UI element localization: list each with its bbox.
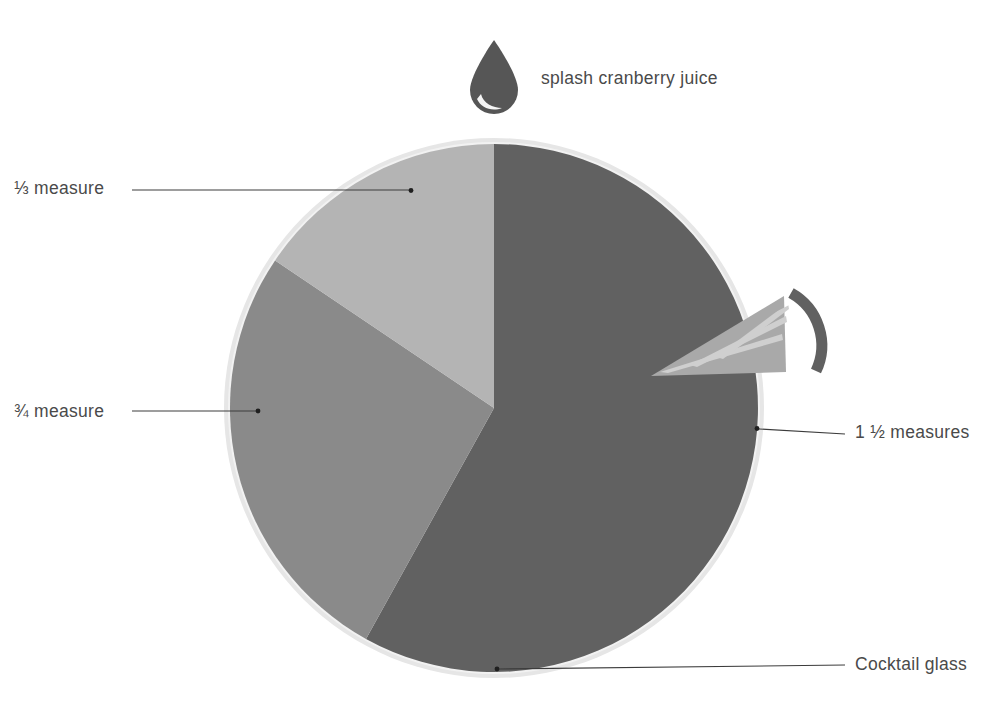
label-one-half-measures: 1 ½ measures (855, 424, 970, 442)
leader-line-one-half-measures (755, 426, 845, 434)
label-third-measure: ⅓ measure (14, 180, 104, 198)
label-cocktail-glass: Cocktail glass (855, 656, 967, 674)
label-three-quarter-measure: ¾ measure (14, 403, 104, 421)
cocktail-glass-outer-arc (791, 293, 822, 371)
water-droplet-icon (470, 40, 518, 114)
pie-diagram-svg (0, 0, 995, 718)
diagram-canvas: ⅓ measure ¾ measure 1 ½ measures Cocktai… (0, 0, 995, 718)
label-splash-cranberry-juice: splash cranberry juice (541, 70, 718, 88)
